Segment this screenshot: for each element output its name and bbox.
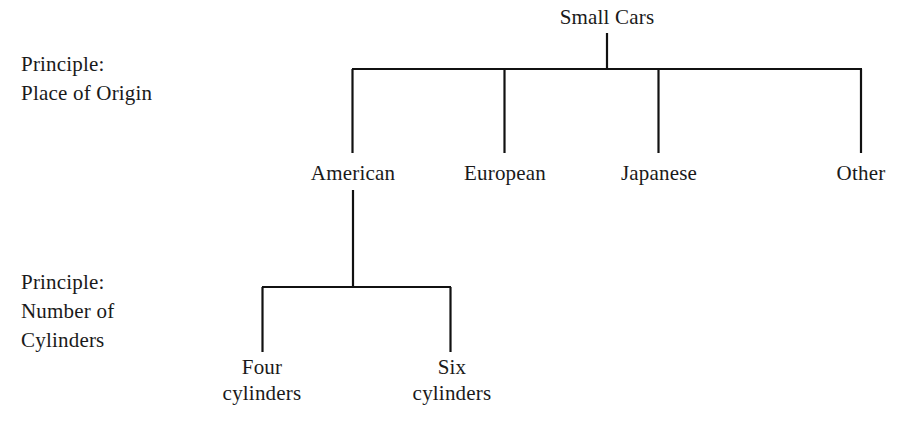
tree-node-four-cylinders: Four cylinders bbox=[223, 354, 302, 406]
classification-tree-diagram: Principle: Place of Origin Principle: Nu… bbox=[0, 0, 901, 424]
tree-node-japanese: Japanese bbox=[621, 160, 697, 187]
tree-node-other: Other bbox=[837, 160, 886, 187]
tree-node-six-cylinders: Six cylinders bbox=[413, 354, 492, 406]
tree-node-european: European bbox=[464, 160, 546, 187]
tree-node-american: American bbox=[311, 160, 395, 187]
principle-label-number-of-cylinders: Principle: Number of Cylinders bbox=[21, 268, 114, 355]
tree-node-small-cars: Small Cars bbox=[560, 4, 655, 31]
principle-label-place-of-origin: Principle: Place of Origin bbox=[21, 50, 152, 108]
